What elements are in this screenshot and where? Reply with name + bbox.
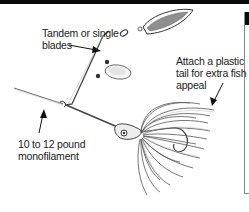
- callout-tail-line-2: tail for extra fish: [176, 67, 246, 79]
- monofilament-line: [14, 88, 63, 105]
- callout-blades: Tandem or single blades: [42, 27, 119, 51]
- callout-blades-line-2: blades: [42, 39, 119, 51]
- jig-head: [115, 124, 142, 140]
- callout-tail: Attach a plastic tail for extra fish app…: [176, 55, 246, 91]
- callout-monofilament: 10 to 12 pound monofilament: [18, 138, 85, 162]
- colorado-blade-small: [104, 63, 132, 80]
- callout-monofilament-line-2: monofilament: [18, 150, 85, 162]
- callout-tail-line-3: appeal: [176, 79, 246, 91]
- arrow-line: [39, 109, 47, 133]
- callout-tail-line-1: Attach a plastic: [176, 55, 246, 67]
- callout-blades-line-1: Tandem or single: [42, 27, 119, 39]
- callout-monofilament-line-1: 10 to 12 pound: [18, 138, 85, 150]
- spinnerbait-illustration: [0, 0, 249, 212]
- willow-blade-large: [143, 9, 193, 34]
- skirt-strands: [138, 102, 214, 195]
